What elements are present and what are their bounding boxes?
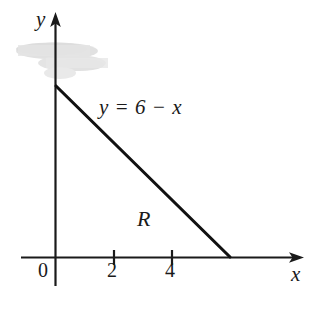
x-tick-label-4: 4 xyxy=(165,260,175,280)
x-tick-label-2: 2 xyxy=(107,260,117,280)
origin-label: 0 xyxy=(38,260,48,280)
x-axis-label: x xyxy=(291,264,300,285)
scan-smudge-artifact xyxy=(16,43,108,80)
y-axis-label: y xyxy=(36,9,45,30)
line-equation-label: y = 6 − x xyxy=(99,97,182,118)
x-axis xyxy=(21,252,304,263)
figure-canvas xyxy=(0,0,320,311)
region-label-R: R xyxy=(137,208,150,230)
math-figure: y x y = 6 − x R 0 2 4 xyxy=(0,0,320,311)
